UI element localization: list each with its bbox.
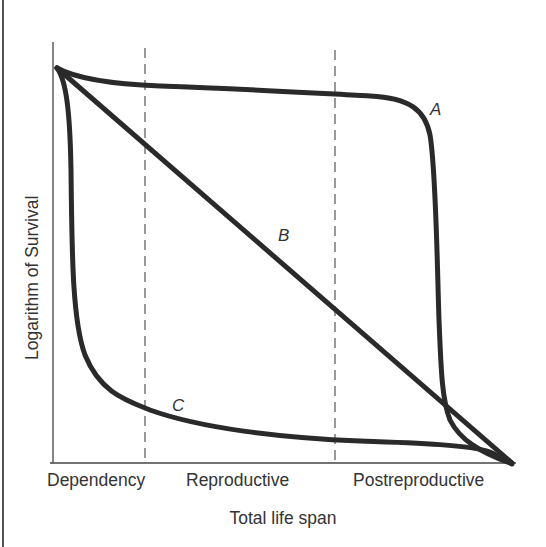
survivorship-chart [0, 0, 546, 547]
curve-c-label: C [172, 396, 184, 416]
curve-b [57, 68, 512, 463]
curve-b-label: B [278, 226, 289, 246]
phase-label-dependency: Dependency [47, 470, 145, 491]
phase-label-postreproductive: Postreproductive [353, 470, 484, 491]
x-axis-title: Total life span [0, 508, 546, 529]
y-axis-title: Logarithm of Survival [22, 196, 43, 360]
curve-a-label: A [430, 100, 441, 120]
phase-label-reproductive: Reproductive [186, 470, 289, 491]
